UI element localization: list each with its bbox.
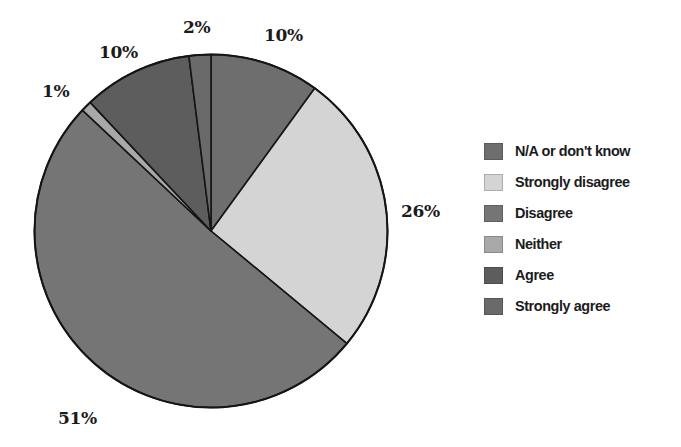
pie-label-slice-2: 26%: [401, 203, 440, 220]
legend-swatch-icon: [484, 174, 503, 191]
pie-slice-group: [35, 55, 388, 408]
legend-item: Agree: [484, 264, 679, 286]
legend-swatch-icon: [484, 267, 503, 284]
legend-swatch-icon: [484, 143, 503, 160]
legend-item-label: Strongly disagree: [515, 173, 630, 191]
legend-item: Strongly agree: [484, 295, 679, 317]
legend-item-label: Disagree: [515, 204, 573, 222]
legend-item-label: Agree: [515, 266, 554, 284]
pie-chart-svg: [0, 0, 440, 447]
legend-item: Strongly disagree: [484, 171, 679, 193]
pie-chart-area: 10% 26% 51% 1% 10% 2%: [0, 0, 440, 447]
chart-legend: N/A or don't knowStrongly disagreeDisagr…: [484, 140, 679, 326]
legend-item: N/A or don't know: [484, 140, 679, 162]
legend-swatch-icon: [484, 298, 503, 315]
pie-label-slice-5: 10%: [99, 44, 138, 61]
pie-label-slice-1: 10%: [264, 27, 303, 44]
pie-label-slice-6: 2%: [183, 19, 210, 36]
legend-swatch-icon: [484, 205, 503, 222]
legend-item-label: Strongly agree: [515, 297, 610, 315]
legend-item-label: N/A or don't know: [515, 142, 630, 160]
pie-chart-figure: 10% 26% 51% 1% 10% 2% N/A or don't knowS…: [0, 0, 681, 447]
legend-swatch-icon: [484, 236, 503, 253]
pie-label-slice-3: 51%: [58, 410, 97, 427]
pie-label-slice-4: 1%: [42, 83, 69, 100]
legend-item-label: Neither: [515, 235, 562, 253]
legend-item: Neither: [484, 233, 679, 255]
legend-item: Disagree: [484, 202, 679, 224]
